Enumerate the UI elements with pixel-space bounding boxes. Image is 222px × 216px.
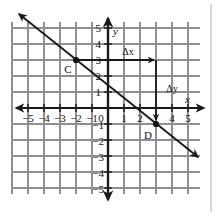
- y-tick-neg5: −5: [92, 183, 104, 195]
- coordinate-plane: −5 −4 −3 −2 −1 1 2 4 5 0 5 4 3 2 1 −1 −2…: [0, 0, 222, 216]
- y-tick-1: 1: [96, 86, 102, 98]
- y-tick-neg4: −4: [92, 167, 104, 179]
- x-tick-neg4: −4: [38, 112, 50, 124]
- y-tick-neg2: −2: [92, 135, 104, 147]
- x-tick-neg3: −3: [54, 112, 66, 124]
- delta-x-label: Δx: [122, 46, 133, 57]
- y-tick-neg1: −1: [92, 119, 104, 131]
- y-tick-3: 3: [96, 54, 102, 66]
- x-tick-5: 5: [185, 112, 191, 124]
- point-d-marker: [153, 121, 159, 127]
- x-tick-4: 4: [169, 112, 175, 124]
- x-tick-1: 1: [121, 112, 127, 124]
- y-axis-label: y: [112, 25, 118, 37]
- point-c-label: C: [64, 63, 71, 75]
- y-tick-neg3: −3: [92, 151, 104, 163]
- point-c-marker: [73, 57, 79, 63]
- x-tick-neg5: −5: [22, 112, 34, 124]
- y-tick-5: 5: [96, 22, 102, 34]
- graph-figure: −5 −4 −3 −2 −1 1 2 4 5 0 5 4 3 2 1 −1 −2…: [0, 0, 222, 216]
- y-tick-4: 4: [96, 38, 102, 50]
- point-d-label: D: [144, 129, 152, 141]
- delta-y-label: Δy: [166, 83, 177, 94]
- x-axis-tick-labels: −5 −4 −3 −2 −1 1 2 4 5: [22, 112, 191, 124]
- x-tick-2: 2: [137, 112, 143, 124]
- y-tick-2: 2: [96, 70, 102, 82]
- x-tick-neg2: −2: [70, 112, 82, 124]
- x-axis-label: x: [184, 93, 190, 105]
